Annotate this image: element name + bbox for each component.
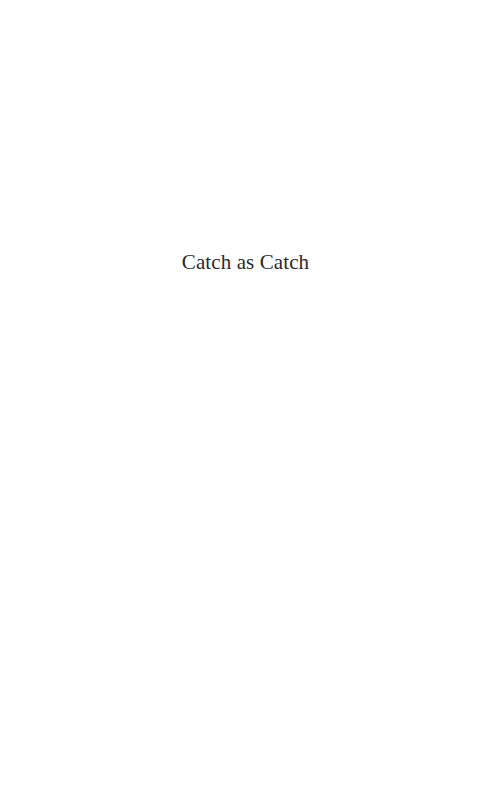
- half-title: Catch as Catch: [0, 249, 491, 275]
- book-page: Catch as Catch: [0, 0, 491, 812]
